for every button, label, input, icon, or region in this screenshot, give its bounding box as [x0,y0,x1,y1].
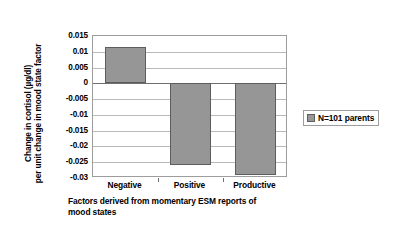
x-axis-tick-label: Positive [157,180,222,190]
y-axis-tick-label: -0.005 [36,94,88,103]
x-axis-tick-label: Productive [222,180,287,190]
y-axis-tick-label: 0 [36,78,88,87]
bar [235,83,276,175]
bar [105,47,146,83]
y-axis-tick-label: -0.025 [36,157,88,166]
y-axis-tick-label: 0.01 [36,46,88,55]
x-axis-title-line-1: Factors derived from momentary ESM repor… [68,196,320,207]
x-axis-title: Factors derived from momentary ESM repor… [68,196,320,218]
bar-series [93,36,286,176]
y-axis-tick-label: -0.03 [36,173,88,182]
y-axis-tick-label: -0.02 [36,141,88,150]
legend: N=101 parents [303,110,379,126]
legend-swatch-icon [307,114,315,122]
legend-label: N=101 parents [318,113,374,123]
y-axis-tick-label: 0.015 [36,31,88,40]
x-axis-tick-label: Negative [92,180,157,190]
y-axis-tick-labels: 0.0150.010.0050-0.005-0.01-0.015-0.02-0.… [36,30,88,182]
x-axis-title-line-2: mood states [68,207,320,218]
y-axis-tick-label: -0.015 [36,125,88,134]
plot-area [92,35,287,177]
y-axis-title-line-1: Change in cortisol (µg/dl) [23,24,33,202]
bar-chart-figure: Change in cortisol (µg/dl) per unit chan… [0,0,394,226]
bar [170,83,211,165]
y-axis-tick-label: -0.01 [36,109,88,118]
x-axis-tick-labels: NegativePositiveProductive [92,180,287,194]
y-axis-tick-label: 0.005 [36,62,88,71]
